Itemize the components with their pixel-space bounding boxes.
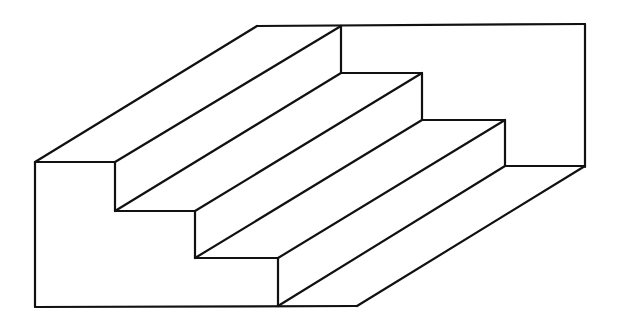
edge-line: [35, 26, 257, 162]
staircase-lines: [35, 24, 585, 307]
edge-line: [257, 24, 585, 26]
edge-line: [35, 306, 357, 307]
staircase-illusion-drawing: [0, 0, 619, 325]
